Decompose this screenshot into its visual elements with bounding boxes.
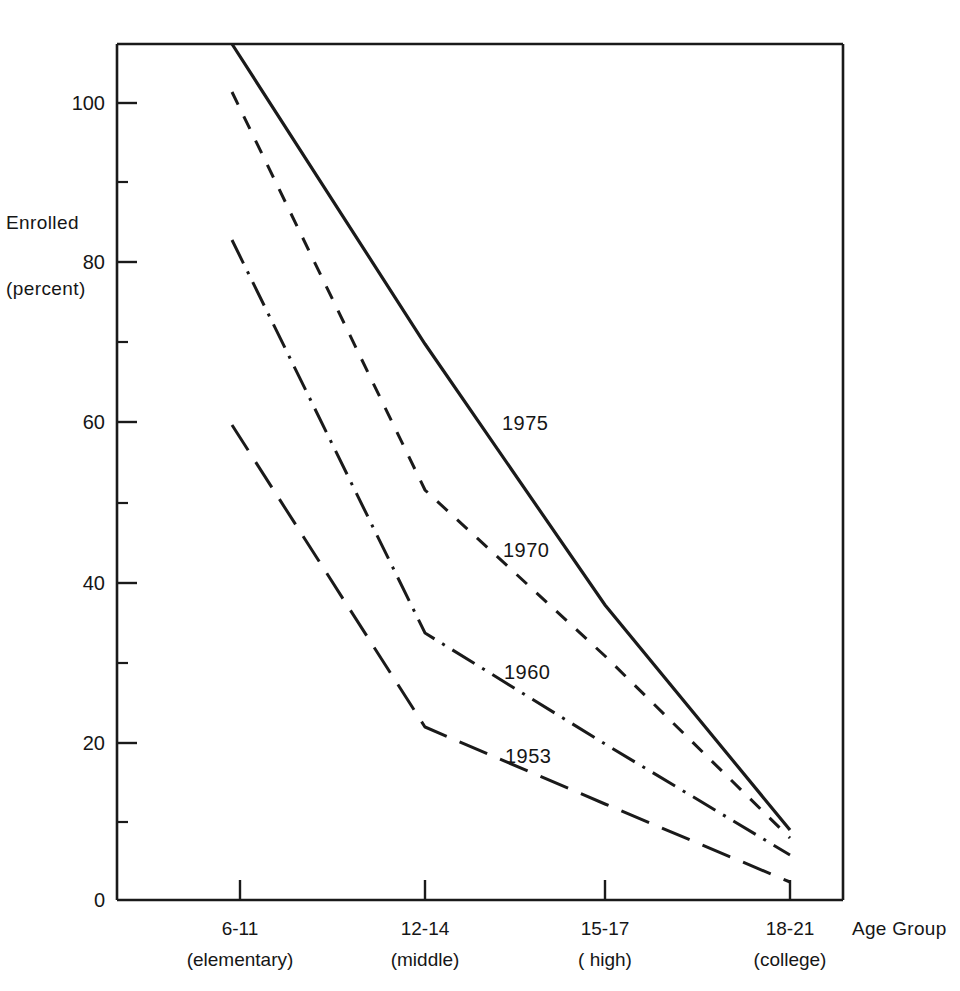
y-tick-label-80: 80 [35, 251, 105, 274]
series-label-1970: 1970 [503, 539, 550, 562]
series-1953 [232, 425, 790, 882]
series-label-1953: 1953 [505, 745, 552, 768]
x-tick-sublabel-college: (college) [706, 949, 874, 971]
x-axis-title: Age Group [852, 918, 947, 940]
series-1975 [232, 44, 790, 830]
x-tick-label-12-14: 12-14 [345, 918, 505, 940]
x-tick-sublabel-middle: (middle) [345, 949, 505, 971]
series-label-1975: 1975 [502, 412, 549, 435]
x-tick-label-15-17: 15-17 [525, 918, 685, 940]
y-tick-label-20: 20 [35, 732, 105, 755]
series-label-1960: 1960 [504, 661, 551, 684]
y-axis-title-line-2: (percent) [6, 278, 86, 300]
x-axis-ticks [240, 880, 790, 900]
x-tick-sublabel-elementary: (elementary) [148, 949, 332, 971]
enrollment-by-age-chart: Enrolled (percent) 100 80 60 40 20 0 6-1… [0, 0, 960, 991]
y-tick-label-60: 60 [35, 411, 105, 434]
plot-frame [117, 44, 843, 900]
x-tick-sublabel-high: ( high) [525, 949, 685, 971]
y-axis-minor-ticks [117, 182, 128, 822]
y-axis-title-line-1: Enrolled [6, 212, 86, 234]
y-tick-label-100: 100 [35, 92, 105, 115]
y-tick-label-0: 0 [35, 889, 105, 912]
y-axis-major-ticks [117, 103, 137, 743]
x-tick-label-18-21: 18-21 [710, 918, 870, 940]
x-tick-label-6-11: 6-11 [160, 918, 320, 940]
y-tick-label-40: 40 [35, 572, 105, 595]
chart-canvas [0, 0, 960, 991]
